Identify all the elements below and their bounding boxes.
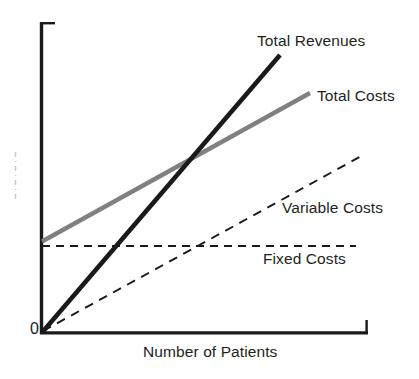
x-axis-title: Number of Patients: [143, 344, 277, 360]
series-label-total-costs: Total Costs: [317, 88, 395, 104]
series-label-variable-costs: Variable Costs: [282, 200, 383, 216]
chart-plot-area: [0, 0, 419, 379]
series-label-fixed-costs: Fixed Costs: [263, 251, 346, 267]
origin-label: 0: [30, 321, 39, 337]
series-line-variable-costs: [43, 154, 365, 331]
series-line-total-costs: [42, 93, 310, 242]
series-line-total-revenues: [43, 55, 281, 332]
series-label-total-revenues: Total Revenues: [257, 33, 365, 49]
cvp-chart: 0 Total Revenues Total Costs Variable Co…: [0, 0, 419, 379]
